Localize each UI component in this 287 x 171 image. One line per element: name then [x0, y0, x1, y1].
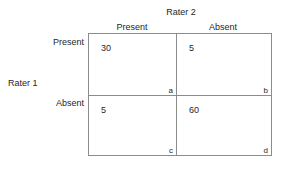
cell-key-c: c: [169, 146, 173, 155]
column-header-absent: Absent: [176, 22, 270, 33]
cell-key-d: d: [264, 146, 268, 155]
matrix-cell-d: 60 d: [176, 95, 271, 155]
cell-value-d: 60: [189, 105, 199, 116]
cell-value-a: 30: [101, 43, 111, 54]
row-axis-title: Rater 1: [8, 78, 70, 89]
cell-value-b: 5: [189, 43, 194, 54]
matrix-grid: 30 a 5 b 5 c 60 d: [88, 33, 272, 156]
cell-key-b: b: [264, 86, 268, 95]
cell-key-a: a: [169, 86, 173, 95]
confusion-matrix-figure: Rater 2 Present Absent Rater 1 Present A…: [0, 0, 287, 171]
column-header-present: Present: [91, 22, 173, 33]
row-header-present: Present: [20, 37, 84, 48]
column-axis-title: Rater 2: [153, 7, 209, 18]
cell-value-c: 5: [101, 105, 106, 116]
matrix-cell-b: 5 b: [176, 34, 271, 95]
matrix-cell-a: 30 a: [89, 34, 176, 95]
matrix-cell-c: 5 c: [89, 95, 176, 155]
row-header-absent: Absent: [20, 98, 84, 109]
